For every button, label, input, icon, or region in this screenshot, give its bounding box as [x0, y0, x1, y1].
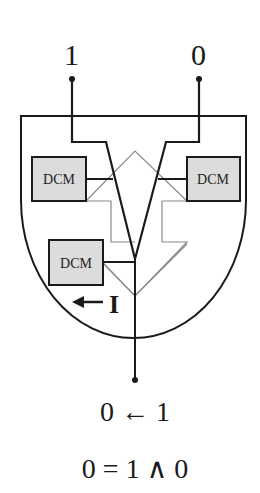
dcm-label-left: DCM	[43, 172, 75, 187]
shield-outline	[21, 116, 246, 338]
current-label: I	[109, 290, 119, 319]
dcm-label-bottom: DCM	[60, 256, 92, 271]
output-relation: 0 ← 1	[0, 398, 260, 426]
output-dot	[132, 377, 138, 383]
dcm-block-bottom: DCM	[49, 240, 103, 285]
current-arrow-icon	[72, 296, 103, 308]
logic-equation: 0 = 1 ∧ 0	[0, 455, 260, 483]
dcm-block-left: DCM	[32, 157, 86, 201]
input-label-0: 0	[191, 40, 206, 70]
dcm-block-right: DCM	[187, 157, 240, 201]
gray-arrow-body	[103, 244, 187, 296]
dcm-label-right: DCM	[197, 172, 229, 187]
input-label-1: 1	[64, 40, 79, 70]
